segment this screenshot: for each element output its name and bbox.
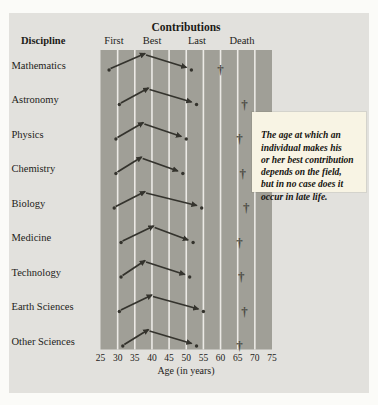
x-tick-label: 45	[164, 353, 174, 363]
death-dagger-icon: †	[241, 97, 248, 112]
discipline-row-label: Other Sciences	[12, 336, 75, 347]
x-tick-label: 55	[199, 353, 209, 363]
death-dagger-icon: †	[240, 166, 247, 181]
x-tick-label: 70	[250, 353, 260, 363]
discipline-row-label: Earth Sciences	[12, 301, 74, 312]
last-contribution-dot	[188, 275, 191, 278]
x-tick-label: 65	[233, 353, 243, 363]
x-tick-label: 35	[130, 353, 140, 363]
first-contribution-dot	[118, 103, 121, 106]
last-contribution-dot	[191, 241, 194, 244]
figure-panel: Contributions Discipline First Best Last…	[9, 13, 369, 393]
death-dagger-icon: †	[236, 131, 243, 146]
first-contribution-dot	[118, 310, 121, 313]
first-contribution-dot	[114, 172, 117, 175]
death-dagger-icon: †	[217, 62, 224, 77]
x-tick-label: 25	[96, 353, 106, 363]
first-contribution-dot	[107, 68, 110, 71]
death-dagger-icon: †	[238, 269, 245, 284]
last-contribution-dot	[195, 344, 198, 347]
death-dagger-icon: †	[236, 338, 243, 353]
discipline-row-label: Astronomy	[12, 94, 60, 105]
x-tick-label: 50	[182, 353, 192, 363]
discipline-row-label: Biology	[12, 198, 47, 209]
discipline-row-label: Mathematics	[12, 60, 66, 71]
first-contribution-dot	[114, 137, 117, 140]
death-dagger-icon: †	[241, 304, 248, 319]
first-contribution-dot	[113, 206, 116, 209]
last-contribution-dot	[185, 137, 188, 140]
last-contribution-dot	[195, 103, 198, 106]
last-contribution-dot	[200, 206, 203, 209]
x-tick-label: 40	[147, 353, 157, 363]
last-contribution-dot	[181, 172, 184, 175]
annotation-text: The age at which an individual makes his…	[261, 130, 354, 201]
x-tick-label: 30	[113, 353, 123, 363]
death-dagger-icon: †	[243, 200, 250, 215]
discipline-row-label: Physics	[12, 129, 44, 140]
first-contribution-dot	[121, 344, 124, 347]
last-contribution-dot	[190, 68, 193, 71]
first-contribution-dot	[119, 275, 122, 278]
last-contribution-dot	[202, 310, 205, 313]
death-dagger-icon: †	[236, 235, 243, 250]
discipline-row-label: Technology	[12, 267, 62, 278]
discipline-row-label: Medicine	[12, 232, 52, 243]
x-tick-label: 75	[267, 353, 277, 363]
first-contribution-dot	[119, 241, 122, 244]
x-axis-title: Age (in years)	[100, 365, 272, 376]
annotation-callout: The age at which an individual makes his…	[252, 112, 366, 192]
discipline-row-label: Chemistry	[12, 163, 56, 174]
x-tick-label: 60	[216, 353, 226, 363]
